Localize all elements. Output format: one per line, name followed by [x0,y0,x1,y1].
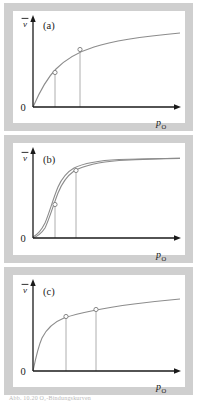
panel-label-b: (b) [43,154,56,166]
figure-caption-text: Abb. 10.20 O₂-Bindungskurven [0,394,197,403]
y-axis-label-c: v [22,284,29,295]
origin-label-b: 0 [20,233,25,244]
y-axis-label-b-symbol: v [23,153,27,163]
panel-c: v (c) 0 p O [4,267,193,395]
marker-a-2 [78,47,82,51]
x-axis-label-a-symbol: p [155,117,161,128]
x-axis-label-b-subscript: O [162,255,167,262]
y-axis-arrowhead-a [30,15,35,22]
marker-a-1 [53,70,57,74]
panel-a-graphic: v (a) 0 p O [4,3,193,131]
y-axis-label-b: v [22,152,29,163]
x-axis-label-a: p O [155,117,167,130]
x-axis-label-a-subscript: O [162,123,167,130]
x-axis-arrowhead-b [174,235,181,240]
y-axis-label-a-symbol: v [23,19,27,29]
x-axis-label-c: p O [155,381,167,394]
panel-label-a: (a) [43,20,55,32]
x-axis-arrowhead-c [174,368,181,373]
x-axis-label-b: p O [155,249,167,262]
panel-b-graphic: v (b) 0 p O [4,135,193,263]
marker-b-2 [74,168,78,172]
panel-a: v (a) 0 p O [4,3,193,131]
panel-c-graphic: v (c) 0 p O [4,267,193,395]
marker-b-1 [53,202,57,206]
origin-label-c: 0 [20,366,25,377]
x-axis-label-b-symbol: p [155,249,161,260]
curve-c-hyperbolic [33,299,180,371]
y-axis-label-a: v [22,18,29,29]
x-axis-arrowhead-a [174,104,181,109]
origin-label-a: 0 [20,102,25,113]
oxygen-binding-curves-figure: v (a) 0 p O [0,0,197,403]
marker-c-2 [94,307,98,311]
y-axis-label-c-symbol: v [23,285,27,295]
panel-label-c: (c) [43,286,55,298]
marker-c-1 [64,314,68,318]
figure-caption: Abb. 10.20 O₂-Bindungskurven [0,394,197,403]
y-axis-arrowhead-c [30,279,35,286]
y-axis-arrowhead-b [30,147,35,154]
x-axis-label-c-subscript: O [162,387,167,394]
panel-b: v (b) 0 p O [4,135,193,263]
x-axis-label-c-symbol: p [155,381,161,392]
